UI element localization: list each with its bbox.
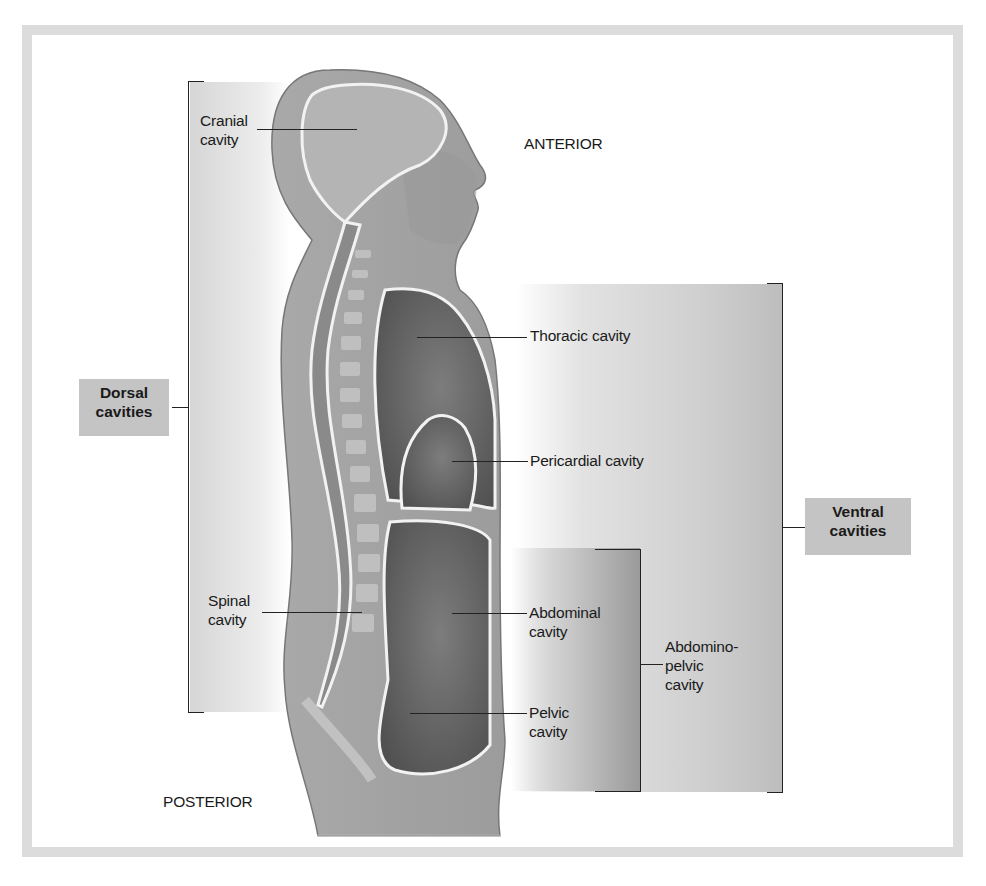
- ventral-bracket-tick: [783, 527, 805, 528]
- cranial-cavity-label: Cranial cavity: [200, 111, 248, 149]
- ventral-bracket: [767, 283, 783, 793]
- spinal-leader-line: [262, 612, 362, 613]
- ventral-cavities-label: Ventral cavities: [805, 498, 911, 555]
- abdominal-leader-line: [452, 613, 527, 614]
- abdominal-cavity-label: Abdominal cavity: [529, 603, 600, 641]
- dorsal-cavities-label: Dorsal cavities: [79, 379, 169, 436]
- abdominopelvic-bracket-tick: [641, 664, 663, 665]
- body-sagittal-illustration: [0, 0, 986, 886]
- thoracic-leader-line: [417, 337, 527, 338]
- pericardial-cavity-label: Pericardial cavity: [530, 451, 644, 470]
- dorsal-bracket-tick: [172, 407, 189, 408]
- pericardial-leader-line: [452, 461, 528, 462]
- abdominopelvic-cavity-shape: [379, 521, 490, 774]
- thoracic-cavity-label: Thoracic cavity: [530, 326, 630, 345]
- posterior-label: POSTERIOR: [163, 792, 253, 811]
- abdominopelvic-bracket: [595, 549, 641, 792]
- spinal-cavity-label: Spinal cavity: [208, 591, 250, 629]
- abdominopelvic-cavity-label: Abdomino- pelvic cavity: [665, 637, 738, 694]
- pelvic-cavity-label: Pelvic cavity: [529, 703, 569, 741]
- pelvic-leader-line: [410, 713, 527, 714]
- dorsal-bracket: [188, 81, 204, 713]
- cranial-leader-line: [257, 129, 357, 130]
- anterior-label: ANTERIOR: [524, 134, 603, 153]
